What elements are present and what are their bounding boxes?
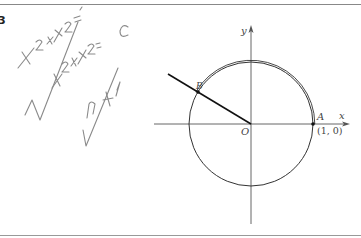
origin-label: O (241, 126, 249, 137)
handwritten-notes (18, 7, 128, 146)
y-axis-label: y (240, 25, 247, 36)
point-A-label: A (316, 111, 324, 122)
point-A (311, 122, 315, 126)
unit-circle-figure: 3 x y (0, 0, 361, 238)
arc-A-to-B (196, 60, 315, 124)
x-axis-label: x (339, 110, 345, 121)
terminal-ray-OB (168, 74, 251, 124)
point-A-coordinates: (1, 0) (317, 125, 343, 136)
corner-mark: 3 (0, 14, 6, 27)
y-axis (249, 25, 254, 224)
point-B-label: B (195, 81, 203, 91)
